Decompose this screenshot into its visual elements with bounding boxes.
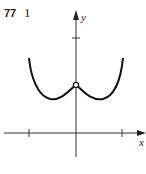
y-axis-label: y [80,11,86,23]
function-graph: x y [0,0,146,174]
y-axis-arrow-icon [73,10,79,20]
x-axis-label: x [138,136,144,148]
open-circle-hole [73,82,78,87]
x-axis: x [4,129,146,148]
